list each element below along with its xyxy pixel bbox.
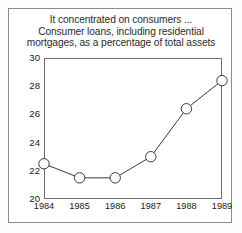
y-axis-tick-22: 22 — [18, 166, 40, 176]
chart-title: It concentrated on consumers ... Consume… — [10, 14, 232, 49]
chart-title-line-1: It concentrated on consumers ... — [10, 14, 232, 26]
y-axis-tick-28: 28 — [18, 81, 40, 91]
data-point-1988 — [181, 104, 191, 114]
y-axis-tick-30: 30 — [18, 53, 40, 63]
plot-svg — [44, 58, 222, 199]
x-axis-tick-1987: 1987 — [131, 201, 171, 212]
chart-title-line-3: mortgages, as a percentage of total asse… — [10, 37, 232, 49]
y-axis-tick-labels: 202224262830 — [16, 0, 40, 233]
x-axis-tick-1985: 1985 — [60, 201, 100, 212]
y-axis-tick-26: 26 — [18, 109, 40, 119]
data-point-1984 — [39, 159, 49, 169]
data-point-1986 — [110, 173, 120, 183]
x-axis-tick-labels: 198419851986198719881989 — [44, 201, 222, 215]
data-series-line — [44, 81, 222, 178]
y-axis-tick-24: 24 — [18, 138, 40, 148]
x-axis-tick-1988: 1988 — [166, 201, 206, 212]
x-axis-tick-1984: 1984 — [24, 201, 64, 212]
data-point-1989 — [217, 75, 227, 85]
data-point-1985 — [74, 173, 84, 183]
x-axis-tick-1986: 1986 — [95, 201, 135, 212]
data-point-1987 — [146, 152, 156, 162]
x-axis-tick-1989: 1989 — [202, 201, 242, 212]
chart-title-line-2: Consumer loans, including residential — [10, 26, 232, 38]
chart-figure: It concentrated on consumers ... Consume… — [0, 0, 242, 233]
